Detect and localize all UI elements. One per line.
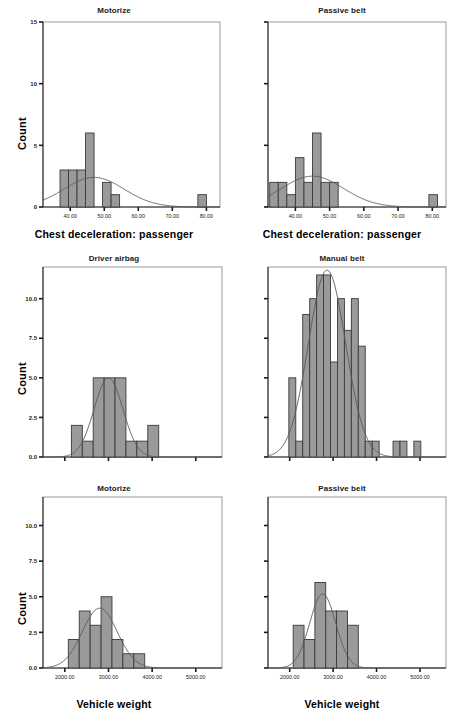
histogram-bar — [69, 170, 78, 207]
histogram-grid: Motorize Count Chest deceleration: passe… — [0, 0, 456, 724]
panel-title: Manual belt — [228, 254, 456, 263]
y-tick-label: 7.5 — [29, 335, 38, 341]
x-axis-label: Chest deceleration: passenger — [228, 228, 456, 240]
histogram-bar — [347, 625, 358, 668]
histogram-bar — [330, 182, 339, 207]
x-tick-label: 60.00 — [357, 213, 371, 219]
histogram-bar — [90, 625, 101, 668]
y-axis-label: Count — [16, 117, 28, 150]
chart-row-top: Motorize Count Chest deceleration: passe… — [0, 0, 456, 250]
panel-middle-right: Manual belt — [228, 250, 456, 480]
histogram-bar — [310, 299, 317, 457]
plot-area-bottom-right: 2000.003000.004000.005000.00 — [228, 480, 456, 724]
x-tick-label: 70.00 — [166, 213, 180, 219]
y-tick-label: 2.5 — [29, 630, 38, 636]
histogram-bar — [337, 611, 348, 668]
histogram-bar — [358, 346, 365, 457]
x-tick-label: 60.00 — [132, 213, 146, 219]
y-tick-label: 10 — [30, 81, 37, 87]
histogram-bar — [104, 378, 115, 457]
panel-title: Driver airbag — [0, 254, 228, 263]
x-tick-label: 40.00 — [63, 213, 77, 219]
panel-title: Passive belt — [228, 6, 456, 15]
y-tick-label: 7.5 — [29, 558, 38, 564]
histogram-bar — [198, 195, 207, 207]
y-tick-label: 5 — [34, 143, 38, 149]
y-tick-label: 2.5 — [29, 415, 38, 421]
histogram-bar — [414, 441, 421, 457]
histogram-bar — [317, 275, 324, 457]
panel-top-right: Passive belt Chest deceleration: passeng… — [228, 0, 456, 250]
y-axis-label: Count — [16, 592, 28, 625]
histogram-bar — [303, 315, 310, 458]
histogram-bar — [71, 425, 82, 457]
histogram-bar — [365, 441, 372, 457]
plot-area-bottom-left: 0.02.55.07.510.02000.003000.004000.00500… — [0, 480, 228, 724]
panel-title: Passive belt — [228, 484, 456, 493]
panel-bottom-left: Motorize Count Vehicle weight 0.02.55.07… — [0, 480, 228, 724]
x-tick-label: 4000.00 — [142, 674, 162, 680]
histogram-bar — [123, 654, 134, 668]
x-tick-label: 50.00 — [98, 213, 112, 219]
histogram-bar — [324, 275, 331, 457]
x-tick-label: 70.00 — [391, 213, 405, 219]
y-tick-label: 15 — [30, 19, 37, 25]
histogram-bar — [296, 441, 303, 457]
histogram-bar — [304, 640, 315, 669]
panel-title: Motorize — [0, 484, 228, 493]
histogram-bar — [372, 441, 379, 457]
panel-top-left: Motorize Count Chest deceleration: passe… — [0, 0, 228, 250]
plot-area-middle-left: 0.02.55.07.510.0 — [0, 250, 228, 480]
x-axis-label: Vehicle weight — [228, 698, 456, 710]
y-tick-label: 10.0 — [25, 523, 37, 529]
y-tick-label: 10.0 — [25, 296, 37, 302]
histogram-bar — [321, 182, 330, 207]
histogram-bar — [86, 133, 95, 207]
histogram-bar — [429, 195, 438, 207]
histogram-bar — [313, 133, 322, 207]
panel-bottom-right: Passive belt Vehicle weight 2000.003000.… — [228, 480, 456, 724]
histogram-bar — [148, 425, 159, 457]
chart-row-middle: Driver airbag Count 0.02.55.07.510.0 Man… — [0, 250, 456, 480]
plot-frame — [43, 267, 222, 457]
y-tick-label: 0 — [34, 204, 38, 210]
chart-row-bottom: Motorize Count Vehicle weight 0.02.55.07… — [0, 480, 456, 724]
histogram-bar — [304, 182, 313, 207]
panel-middle-left: Driver airbag Count 0.02.55.07.510.0 — [0, 250, 228, 480]
plot-frame — [268, 22, 446, 207]
plot-area-top-right: 40.0050.0060.0070.0080.00 — [228, 0, 456, 250]
x-tick-label: 50.00 — [323, 213, 337, 219]
x-axis-label: Chest deceleration: passenger — [0, 228, 228, 240]
histogram-bar — [344, 330, 351, 457]
x-tick-label: 80.00 — [200, 213, 214, 219]
y-tick-label: 0.0 — [29, 665, 38, 671]
histogram-bar — [112, 640, 123, 669]
histogram-bar — [287, 195, 296, 207]
y-axis-label: Count — [16, 362, 28, 395]
x-tick-label: 2000.00 — [280, 674, 300, 680]
histogram-bar — [337, 299, 344, 457]
x-tick-label: 40.00 — [289, 213, 303, 219]
x-tick-label: 5000.00 — [186, 674, 206, 680]
panel-title: Motorize — [0, 6, 228, 15]
histogram-bar — [77, 170, 86, 207]
plot-area-top-left: 05101540.0050.0060.0070.0080.00 — [0, 0, 228, 250]
histogram-bar — [295, 158, 304, 207]
histogram-bar — [351, 299, 358, 457]
plot-area-middle-right — [228, 250, 456, 480]
x-tick-label: 4000.00 — [367, 674, 387, 680]
x-axis-label: Vehicle weight — [0, 698, 228, 710]
y-tick-label: 5.0 — [29, 594, 38, 600]
histogram-bar — [400, 441, 407, 457]
histogram-bar — [82, 441, 93, 457]
x-tick-label: 3000.00 — [323, 674, 343, 680]
histogram-bar — [289, 378, 296, 457]
y-tick-label: 5.0 — [29, 375, 38, 381]
histogram-bar — [103, 182, 112, 207]
x-tick-label: 3000.00 — [99, 674, 119, 680]
histogram-bar — [101, 597, 112, 668]
histogram-bar — [111, 195, 120, 207]
x-tick-label: 5000.00 — [410, 674, 430, 680]
histogram-bar — [331, 362, 338, 457]
y-tick-label: 0.0 — [29, 454, 38, 460]
